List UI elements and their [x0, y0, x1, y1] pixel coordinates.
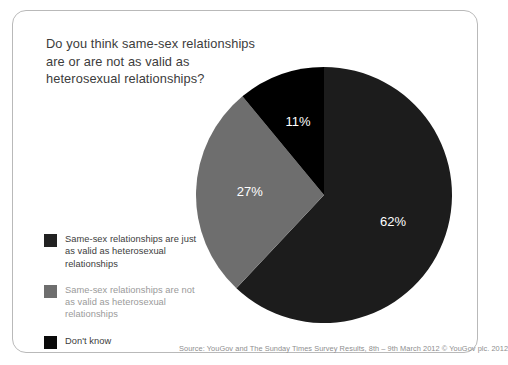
legend-item[interactable]: Same-sex relationships are not as valid … — [44, 284, 204, 321]
legend-item-label: Same-sex relationships are just as valid… — [65, 233, 196, 270]
legend-item-label: Same-sex relationships are not as valid … — [65, 284, 195, 321]
pie-slice-label: 11% — [285, 114, 310, 129]
legend-swatch-icon — [44, 336, 57, 349]
pie-chart-svg: 62%27%11% — [195, 66, 453, 324]
pie-chart: 62%27%11% — [195, 66, 453, 324]
chart-panel: Do you think same-sex relationships are … — [12, 10, 478, 353]
legend-item-label: Don't know — [65, 335, 111, 347]
legend-swatch-icon — [44, 285, 57, 298]
source-attribution: Source: YouGov and The Sunday Times Surv… — [179, 344, 508, 353]
pie-slice-label: 27% — [237, 184, 263, 199]
legend-item[interactable]: Same-sex relationships are just as valid… — [44, 233, 204, 270]
pie-slice-group — [196, 67, 452, 323]
pie-slice-label: 62% — [380, 214, 406, 229]
legend-swatch-icon — [44, 234, 57, 247]
